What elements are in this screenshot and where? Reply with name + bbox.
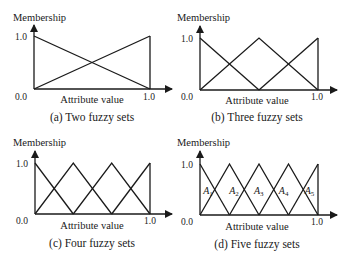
fuzzy-sets-figure: Membership 1.0 0.0 1.0 Attribute value (… bbox=[0, 0, 347, 265]
set-label-1: A1 bbox=[202, 185, 213, 198]
origin-tick: 0.0 bbox=[181, 217, 193, 227]
y-axis-label: Membership bbox=[177, 137, 230, 148]
membership-functions bbox=[34, 36, 150, 89]
y-tick-1: 1.0 bbox=[181, 34, 193, 44]
caption: (c) Four fuzzy sets bbox=[49, 237, 135, 250]
y-tick-1: 1.0 bbox=[181, 160, 193, 170]
set-label-2: A2 bbox=[228, 185, 239, 198]
x-axis-label: Attribute value bbox=[225, 221, 289, 232]
membership-function-set-2 bbox=[200, 38, 318, 90]
membership-function-set-2 bbox=[35, 163, 112, 214]
membership-functions bbox=[35, 163, 150, 214]
y-axis-label: Membership bbox=[177, 12, 230, 23]
x-tick-1: 1.0 bbox=[144, 216, 156, 226]
panel-d: Membership 1.0 0.0 1.0 Attribute value (… bbox=[177, 137, 337, 251]
x-tick-1: 1.0 bbox=[311, 92, 323, 102]
set-label-3: A3 bbox=[253, 185, 264, 198]
y-axis-label: Membership bbox=[13, 12, 66, 23]
origin-tick: 0.0 bbox=[15, 92, 27, 102]
membership-function-set-3 bbox=[73, 163, 150, 214]
x-axis-label: Attribute value bbox=[225, 95, 289, 106]
caption: (b) Three fuzzy sets bbox=[211, 111, 303, 124]
panel-a: Membership 1.0 0.0 1.0 Attribute value (… bbox=[13, 12, 172, 124]
panel-c: Membership 1.0 0.0 1.0 Attribute value (… bbox=[13, 137, 172, 250]
y-tick-1: 1.0 bbox=[15, 32, 27, 42]
y-axis-label: Membership bbox=[13, 137, 66, 148]
origin-tick: 0.0 bbox=[16, 216, 28, 226]
x-axis-label: Attribute value bbox=[60, 94, 124, 105]
panel-b: Membership 1.0 0.0 1.0 Attribute value (… bbox=[177, 12, 337, 124]
set-label-5: A5 bbox=[304, 185, 315, 198]
origin-tick: 0.0 bbox=[181, 92, 193, 102]
y-tick-1: 1.0 bbox=[16, 159, 28, 169]
x-axis-label: Attribute value bbox=[60, 220, 124, 231]
caption: (a) Two fuzzy sets bbox=[50, 111, 135, 124]
x-tick-1: 1.0 bbox=[311, 217, 323, 227]
membership-functions bbox=[200, 38, 318, 90]
set-label-4: A4 bbox=[278, 185, 289, 198]
x-tick-1: 1.0 bbox=[143, 92, 155, 102]
caption: (d) Five fuzzy sets bbox=[214, 238, 300, 251]
